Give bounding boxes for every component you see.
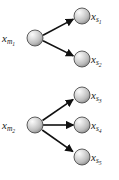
edge-arrow bbox=[43, 41, 73, 56]
edge-layer bbox=[42, 19, 73, 152]
node-circle-x-s3[interactable] bbox=[74, 87, 90, 103]
node-label-x-s5: xs5 bbox=[91, 152, 102, 166]
label-sub-subscript: 2 bbox=[12, 128, 15, 134]
node-label-x-m1: xm1 bbox=[2, 33, 15, 47]
label-subscript: s4 bbox=[96, 124, 102, 133]
label-sub-subscript: 2 bbox=[99, 62, 102, 68]
label-subscript: s3 bbox=[96, 94, 102, 103]
diagram-canvas: xm1xs1xs2xm2xs3xs4xs5 bbox=[0, 0, 119, 180]
node-label-x-s2: xs2 bbox=[91, 54, 102, 68]
node-label-x-m2: xm2 bbox=[2, 120, 15, 134]
label-subscript: m2 bbox=[7, 124, 15, 133]
label-sub-subscript: 3 bbox=[99, 98, 102, 104]
edge-arrow bbox=[43, 19, 73, 35]
node-label-x-s4: xs4 bbox=[91, 120, 102, 134]
edge-arrow bbox=[42, 130, 73, 152]
node-label-x-s1: xs1 bbox=[91, 11, 102, 25]
label-sub-subscript: 4 bbox=[99, 128, 102, 134]
node-circle-x-s5[interactable] bbox=[74, 149, 90, 165]
edge-arrow bbox=[43, 99, 74, 120]
label-sub-subscript: 1 bbox=[99, 19, 102, 25]
node-circle-x-s1[interactable] bbox=[74, 8, 90, 24]
label-subscript: s1 bbox=[96, 15, 102, 24]
node-circle-x-m2[interactable] bbox=[27, 117, 43, 133]
node-label-x-s3: xs3 bbox=[91, 90, 102, 104]
node-circle-x-s2[interactable] bbox=[74, 51, 90, 67]
label-subscript: s2 bbox=[96, 58, 102, 67]
label-subscript: m1 bbox=[7, 37, 15, 46]
node-circle-x-s4[interactable] bbox=[74, 117, 90, 133]
label-subscript: s5 bbox=[96, 156, 102, 165]
label-sub-subscript: 5 bbox=[99, 160, 102, 166]
node-circle-x-m1[interactable] bbox=[27, 30, 43, 46]
label-sub-subscript: 1 bbox=[12, 41, 15, 47]
